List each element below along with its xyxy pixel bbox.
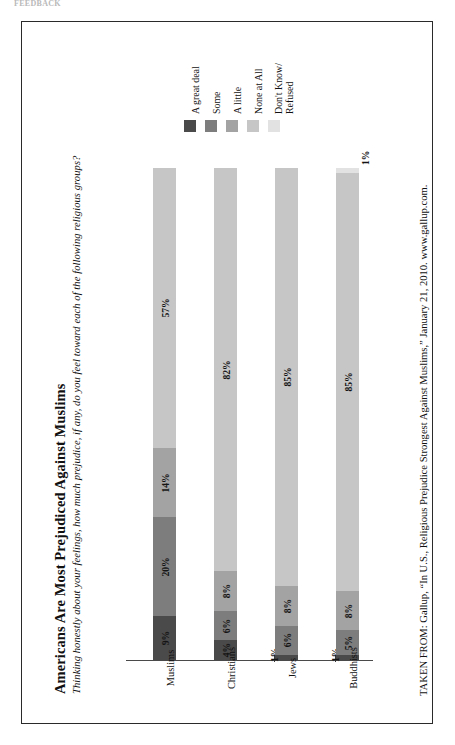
bar-segment[interactable]: 82% <box>214 168 237 571</box>
bar-segment-label: 1% <box>360 151 371 165</box>
bar-segment[interactable]: 14% <box>153 448 176 517</box>
bar-column[interactable]: 9%20%14%57%Muslims <box>153 22 176 660</box>
bar-segment[interactable]: 57% <box>153 168 176 448</box>
bar-segment[interactable]: 6% <box>275 626 298 656</box>
bar-segment-label: 20% <box>159 557 170 576</box>
figure-border: Americans Are Most Prejudiced Against Mu… <box>21 21 433 724</box>
bar-segment-label: 85% <box>342 372 353 391</box>
bar-segment[interactable]: 8% <box>336 591 359 630</box>
bar-segment-label: 6% <box>281 633 292 647</box>
category-label: Christians <box>226 647 237 689</box>
bar-segment[interactable]: 20% <box>153 517 176 615</box>
bar-column[interactable]: 1%6%8%85%Jews <box>275 22 298 660</box>
bar-segment-label: 14% <box>159 473 170 492</box>
page-top-text-sliver: FEEDBACK <box>14 0 84 7</box>
bar-segment[interactable]: 85% <box>336 173 359 591</box>
category-label: Muslims <box>165 650 176 686</box>
category-label: Jews <box>287 658 298 678</box>
bar-segment[interactable] <box>336 168 359 173</box>
bar-segment[interactable]: 8% <box>275 586 298 625</box>
bar-segment-label: 6% <box>220 618 231 632</box>
category-label: Buddhists <box>348 647 359 689</box>
plot-area: 9%20%14%57%Muslims4%6%8%82%Christians1%6… <box>22 22 434 725</box>
bar-segment-label: 8% <box>281 599 292 613</box>
bar-segment-label: 85% <box>281 368 292 387</box>
bar-segment[interactable]: 8% <box>214 571 237 610</box>
bar-column[interactable]: 1%5%8%85%1%Buddhists <box>336 22 359 660</box>
bar-segment-label: 8% <box>220 584 231 598</box>
bar-segment-label: 8% <box>342 604 353 618</box>
bar-segment-label: 82% <box>220 360 231 379</box>
bar-column[interactable]: 4%6%8%82%Christians <box>214 22 237 660</box>
bar-segment-label: 9% <box>159 631 170 645</box>
bar-segment[interactable]: 85% <box>275 168 298 586</box>
bar-segment[interactable]: 6% <box>214 611 237 641</box>
bar-segment-label: 57% <box>159 299 170 318</box>
